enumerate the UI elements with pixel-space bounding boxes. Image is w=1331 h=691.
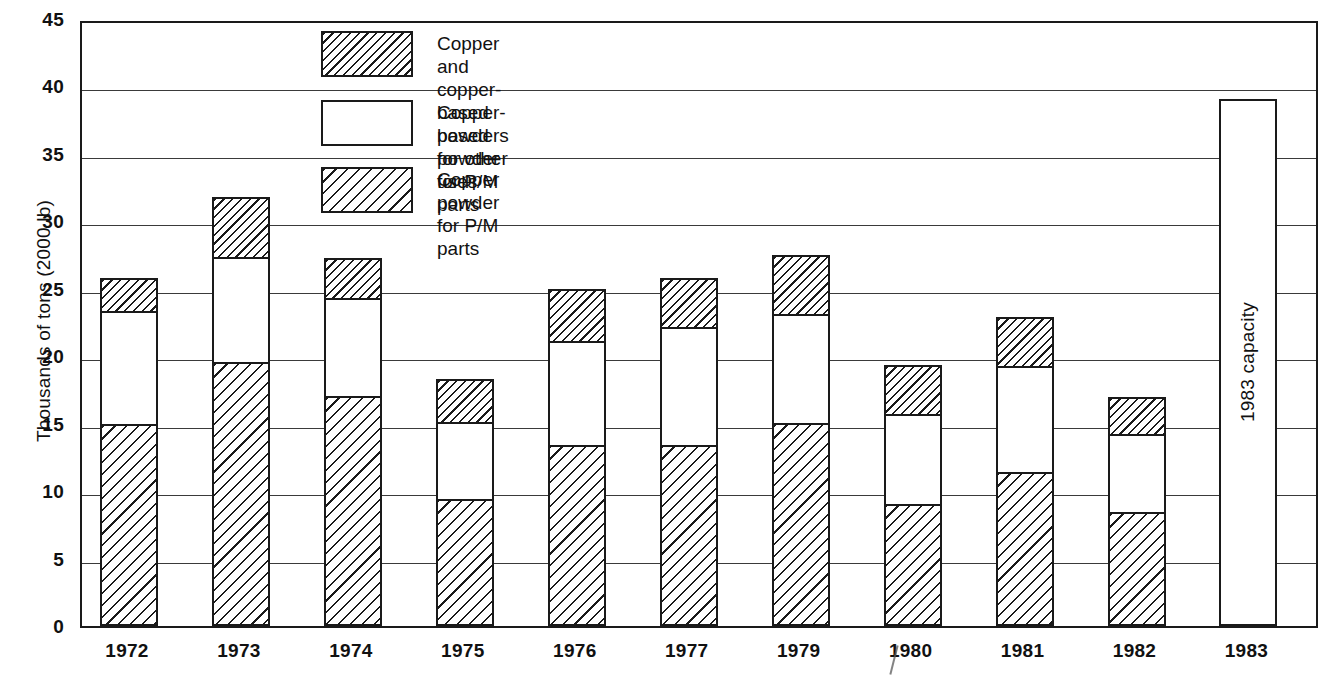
legend-swatch — [321, 31, 413, 77]
y-tick-0: 0 — [16, 616, 64, 638]
bar-1972[interactable] — [100, 19, 158, 626]
bar-segment[interactable] — [996, 471, 1054, 626]
bar-segment[interactable] — [436, 498, 494, 626]
bar-segment[interactable] — [660, 444, 718, 626]
legend-swatch — [321, 167, 413, 213]
legend-item[interactable]: Copper powder for P/M parts — [321, 167, 499, 260]
legend-swatch — [321, 100, 413, 146]
bar-segment[interactable] — [996, 366, 1054, 474]
bar-segment[interactable] — [884, 413, 942, 506]
bar-segment[interactable] — [212, 257, 270, 365]
y-tick-15: 15 — [16, 414, 64, 436]
y-tick-25: 25 — [16, 279, 64, 301]
bar-segment[interactable] — [324, 396, 382, 626]
x-tick-1979: 1979 — [750, 640, 848, 662]
x-tick-1974: 1974 — [302, 640, 400, 662]
bar-1979[interactable] — [772, 19, 830, 626]
bar-1980[interactable] — [884, 19, 942, 626]
y-tick-20: 20 — [16, 346, 64, 368]
bar-segment[interactable] — [436, 421, 494, 500]
legend-label: Copper powder for P/M parts — [437, 167, 499, 260]
x-tick-1982: 1982 — [1086, 640, 1184, 662]
y-tick-45: 45 — [16, 9, 64, 31]
bar-segment[interactable] — [772, 313, 830, 425]
x-tick-1980: 1980 — [862, 640, 960, 662]
bar-segment[interactable] — [996, 317, 1054, 368]
bar-segment[interactable] — [884, 365, 942, 416]
x-tick-1973: 1973 — [190, 640, 288, 662]
y-tick-35: 35 — [16, 144, 64, 166]
bar-segment[interactable]: 1983 capacity — [1219, 99, 1277, 626]
y-tick-5: 5 — [16, 549, 64, 571]
bar-segment[interactable] — [100, 278, 158, 313]
x-tick-1976: 1976 — [526, 640, 624, 662]
bar-segment[interactable] — [436, 379, 494, 423]
bar-1983[interactable]: 1983 capacity — [1219, 19, 1277, 626]
bar-segment[interactable] — [100, 424, 158, 626]
bar-1977[interactable] — [660, 19, 718, 626]
bar-segment[interactable] — [884, 503, 942, 626]
bar-segment[interactable] — [772, 423, 830, 626]
y-tick-30: 30 — [16, 211, 64, 233]
bar-1973[interactable] — [212, 19, 270, 626]
x-tick-1983: 1983 — [1197, 640, 1295, 662]
x-tick-1981: 1981 — [974, 640, 1072, 662]
bar-segment[interactable] — [212, 197, 270, 259]
bar-segment[interactable] — [324, 258, 382, 300]
bar-segment[interactable] — [100, 311, 158, 427]
x-tick-1972: 1972 — [78, 640, 176, 662]
capacity-bar-label: 1983 capacity — [1237, 302, 1259, 422]
x-tick-1975: 1975 — [414, 640, 512, 662]
bar-segment[interactable] — [1108, 397, 1166, 436]
bar-segment[interactable] — [324, 297, 382, 398]
bar-segment[interactable] — [548, 340, 606, 446]
bar-1981[interactable] — [996, 19, 1054, 626]
bar-segment[interactable] — [1108, 512, 1166, 626]
bar-segment[interactable] — [212, 362, 270, 626]
bar-segment[interactable] — [548, 289, 606, 343]
x-tick-1977: 1977 — [638, 640, 736, 662]
bar-segment[interactable] — [548, 444, 606, 626]
plot-area: 1983 capacity — [80, 21, 1318, 628]
bar-segment[interactable] — [772, 255, 830, 316]
bar-segment[interactable] — [1108, 433, 1166, 514]
chart-root: Thousands of tons (2000 lb) 454035302520… — [0, 0, 1331, 691]
bar-segment[interactable] — [660, 278, 718, 329]
bar-1982[interactable] — [1108, 19, 1166, 626]
bar-1976[interactable] — [548, 19, 606, 626]
y-tick-40: 40 — [16, 76, 64, 98]
bar-segment[interactable] — [660, 327, 718, 447]
y-tick-10: 10 — [16, 481, 64, 503]
